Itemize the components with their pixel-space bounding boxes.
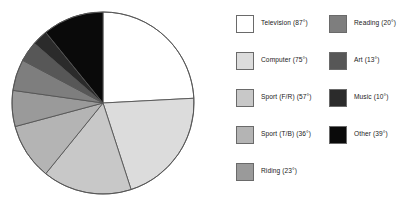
legend-swatch [329, 126, 347, 144]
legend-item[interactable]: Other (39°) [329, 125, 388, 144]
legend-swatch [236, 89, 254, 107]
legend-item[interactable]: Television (87°) [236, 14, 308, 33]
chart-legend: Television (87°)Computer (75°)Sport (F/R… [228, 14, 402, 194]
pie-svg [0, 0, 210, 204]
legend-item-label: Reading (20°) [354, 20, 396, 27]
legend-item-label: Television (87°) [261, 20, 308, 27]
legend-item[interactable]: Sport (F/R) (57°) [236, 88, 312, 107]
legend-item-label: Music (10°) [354, 94, 389, 101]
legend-item[interactable]: Music (10°) [329, 88, 389, 107]
legend-swatch [236, 15, 254, 33]
legend-item-label: Sport (T/B) (36°) [261, 131, 311, 138]
legend-item-label: Art (13°) [354, 57, 380, 64]
legend-item-label: Riding (23°) [261, 168, 297, 175]
legend-swatch [236, 163, 254, 181]
pie-chart-figure: Television (87°)Computer (75°)Sport (F/R… [0, 0, 402, 204]
legend-item-label: Sport (F/R) (57°) [261, 94, 312, 101]
legend-item[interactable]: Art (13°) [329, 51, 380, 70]
legend-item[interactable]: Reading (20°) [329, 14, 396, 33]
legend-swatch [329, 15, 347, 33]
legend-item-label: Other (39°) [354, 131, 388, 138]
legend-item[interactable]: Computer (75°) [236, 51, 308, 70]
legend-swatch [236, 52, 254, 70]
legend-item[interactable]: Sport (T/B) (36°) [236, 125, 311, 144]
legend-swatch [329, 52, 347, 70]
legend-swatch [329, 89, 347, 107]
legend-item[interactable]: Riding (23°) [236, 162, 297, 181]
legend-swatch [236, 126, 254, 144]
pie-plot-area [0, 0, 210, 204]
legend-item-label: Computer (75°) [261, 57, 308, 64]
pie-slice [103, 12, 194, 103]
